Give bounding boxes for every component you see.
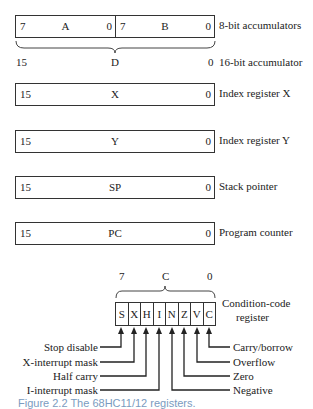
register-y-label: Index register Y bbox=[219, 134, 290, 146]
flag-label-i-interrupt-mask: I-interrupt mask bbox=[27, 384, 98, 396]
flag-label-negative: Negative bbox=[233, 384, 273, 396]
register-name: PC bbox=[16, 227, 214, 239]
register-x: 15 X 0 bbox=[15, 83, 215, 106]
bit-label: 0 bbox=[206, 181, 212, 193]
ccr-bit-n: N bbox=[166, 303, 179, 325]
ccr-bit-s: S bbox=[116, 303, 129, 325]
register-name: SP bbox=[16, 181, 214, 193]
ccr-bit-z: Z bbox=[179, 303, 192, 325]
register-sp-label: Stack pointer bbox=[219, 180, 277, 192]
register-name: Y bbox=[16, 135, 214, 147]
ccr-lo-bit: 0 bbox=[207, 270, 213, 282]
register-x-label: Index register X bbox=[219, 87, 290, 99]
ccr-bit-i: I bbox=[154, 303, 167, 325]
ccr-bit-x: X bbox=[129, 303, 142, 325]
ccr-bit-c: C bbox=[204, 303, 216, 325]
condition-code-register: S X H I N Z V C bbox=[115, 302, 216, 326]
d-hi-bit: 15 bbox=[16, 56, 27, 68]
ccr-name: C bbox=[162, 270, 169, 282]
flag-label-overflow: Overflow bbox=[233, 356, 275, 368]
ccr-bit-v: V bbox=[191, 303, 204, 325]
flag-label-stop-disable: Stop disable bbox=[44, 341, 98, 353]
bit-label: 0 bbox=[206, 135, 212, 147]
ccr-label-line2: register bbox=[236, 311, 269, 323]
register-name: X bbox=[16, 88, 214, 100]
bit-label: 0 bbox=[206, 88, 212, 100]
flag-label-carry-borrow: Carry/borrow bbox=[233, 341, 293, 353]
register-pc-label: Program counter bbox=[219, 226, 293, 238]
flag-label-zero: Zero bbox=[233, 370, 254, 382]
ccr-label-line1: Condition-code bbox=[222, 297, 290, 309]
flag-label-half-carry: Half carry bbox=[53, 370, 98, 382]
register-pc: 15 PC 0 bbox=[15, 222, 215, 245]
figure-caption: Figure 2.2 The 68HC11/12 registers. bbox=[18, 397, 196, 409]
d-register-name: D bbox=[111, 56, 119, 68]
register-y: 15 Y 0 bbox=[15, 130, 215, 153]
label-16bit: 16-bit accumulator bbox=[219, 56, 302, 68]
bit-label: 0 bbox=[206, 227, 212, 239]
register-sp: 15 SP 0 bbox=[15, 176, 215, 199]
ccr-bit-h: H bbox=[141, 303, 154, 325]
d-lo-bit: 0 bbox=[208, 56, 214, 68]
flag-label-x-interrupt-mask: X-interrupt mask bbox=[23, 356, 98, 368]
ccr-hi-bit: 7 bbox=[119, 270, 125, 282]
